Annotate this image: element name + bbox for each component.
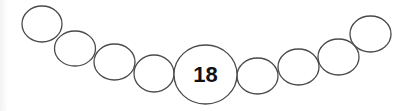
center-bead-label: 18 bbox=[174, 45, 237, 104]
bead-1 bbox=[22, 6, 62, 42]
bead-7 bbox=[278, 49, 319, 85]
bead-6 bbox=[237, 58, 278, 94]
bead-4 bbox=[134, 55, 174, 92]
bead-8 bbox=[318, 39, 359, 75]
bead-3 bbox=[94, 44, 135, 80]
bead-2 bbox=[55, 31, 96, 66]
bead-9 bbox=[350, 16, 391, 52]
